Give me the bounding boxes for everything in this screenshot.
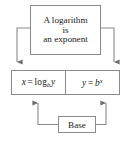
log-operator: = [26,77,35,87]
logarithmic-form-box: x=logby [11,70,66,95]
exp-superscript: x [100,77,103,84]
log-function: log [35,77,48,87]
base-box: Base [58,116,96,133]
exp-operator: = [86,78,95,88]
statement-line-3: an exponent [43,35,88,45]
exponential-form-box: y=bx [65,70,120,95]
statement-box: A logarithm is an exponent [30,5,101,55]
logarithmic-form-label: x=logby [22,77,56,88]
log-argument: y [51,77,55,87]
base-label: Base [68,120,86,130]
connector-statement-to-log [17,28,30,62]
logarithm-concept-diagram: A logarithm is an exponent x=logby y=bx … [0,0,131,141]
log-subscript: b [47,81,50,88]
connector-statement-to-exp [101,28,114,62]
connector-base-to-exp [96,103,106,125]
exponential-form-label: y=bx [82,77,103,88]
connector-base-to-log [38,103,58,125]
